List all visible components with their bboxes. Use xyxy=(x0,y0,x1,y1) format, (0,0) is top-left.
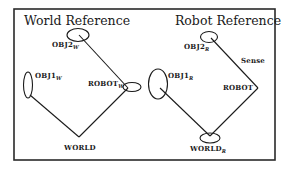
world-reference-panel: World Reference OBJ2W OBJ1W ROBOTW WORLD xyxy=(24,13,142,152)
edge-world-r-to-obj1 xyxy=(160,88,210,136)
edge-world-to-robot xyxy=(79,88,128,137)
obj1-w-node xyxy=(24,72,33,98)
world-r-node xyxy=(200,133,220,143)
world-r-label: WORLDR xyxy=(189,144,226,154)
sense-edge-label: Sense xyxy=(241,56,265,65)
robot-reference-title: Robot Reference xyxy=(175,13,281,28)
world-reference-title: World Reference xyxy=(24,13,130,28)
obj1-r-node xyxy=(149,69,168,99)
edge-world-to-obj1 xyxy=(30,95,79,137)
obj1-w-label: OBJ1W xyxy=(35,71,63,81)
obj2-r-node xyxy=(201,32,218,43)
world-label: WORLD xyxy=(63,143,96,152)
robot-reference-panel: Robot Reference OBJ2R Sense OBJ1R ROBOT … xyxy=(149,13,282,154)
obj1-r-label: OBJ1R xyxy=(168,71,193,81)
reference-frames-diagram: World Reference OBJ2W OBJ1W ROBOTW WORLD… xyxy=(0,0,290,181)
obj2-r-label: OBJ2R xyxy=(184,42,209,52)
edge-world-r-to-robot xyxy=(210,88,258,136)
robot-w-label: ROBOTW xyxy=(88,79,125,89)
robot-w-node xyxy=(123,83,141,92)
robot-label: ROBOT xyxy=(223,83,254,92)
